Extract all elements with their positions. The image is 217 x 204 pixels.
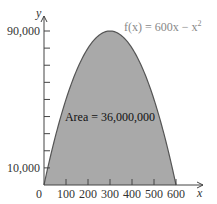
area-chart: 100200300400500600 y x 90,000 10,000 0 f…: [0, 0, 217, 204]
x-axis-label: x: [196, 186, 203, 200]
area-annotation: Area = 36,000,000: [65, 110, 155, 124]
function-label: f(x) = 600x − x2: [124, 19, 202, 34]
y-tick-label-90000: 90,000: [7, 24, 40, 38]
x-tick-label-500: 500: [145, 187, 163, 201]
x-tick-label-origin: 0: [36, 187, 42, 201]
x-tick-label-400: 400: [123, 187, 141, 201]
x-tick-label-200: 200: [79, 187, 97, 201]
y-axis-label: y: [35, 6, 42, 20]
function-label-exponent: 2: [198, 19, 202, 28]
y-tick-label-10000: 10,000: [7, 161, 40, 175]
function-label-main: f(x) = 600x − x: [124, 20, 198, 34]
x-tick-label-100: 100: [57, 187, 75, 201]
x-tick-label-600: 600: [167, 187, 185, 201]
x-tick-label-300: 300: [101, 187, 119, 201]
y-axis-ticks: [44, 31, 50, 168]
